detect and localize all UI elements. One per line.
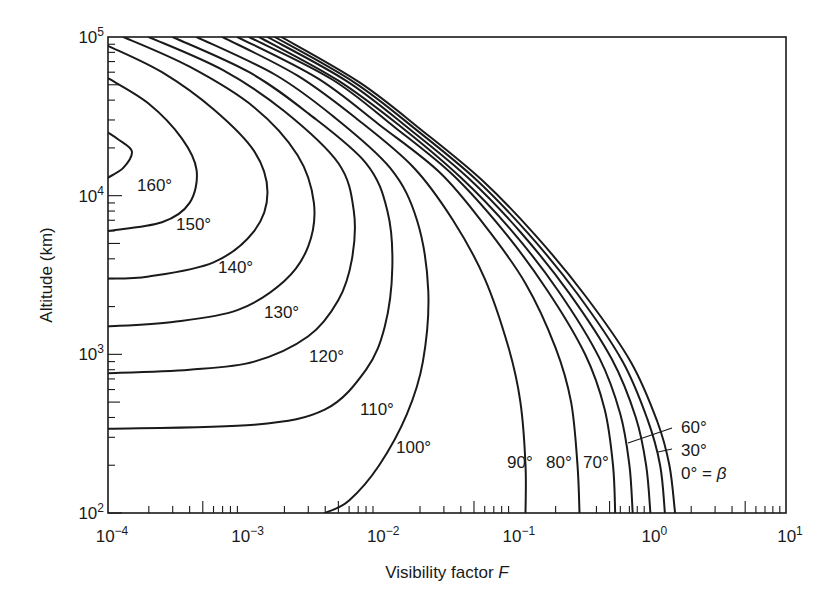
- curve-140deg: [108, 46, 268, 279]
- label-150: 150°: [176, 215, 211, 234]
- x-tick-label: 10−1: [502, 524, 535, 546]
- x-tick-label: 10−4: [96, 524, 129, 546]
- label-80: 80°: [546, 453, 572, 472]
- y-tick-label: 103: [78, 342, 104, 364]
- y-tick-label: 102: [78, 501, 104, 523]
- axis-ticks: [108, 44, 780, 513]
- x-tick-label: 10−3: [231, 524, 264, 546]
- visibility-factor-chart: 10−410−310−210−1100101102103104105 Visib…: [0, 0, 830, 602]
- curve-labels: 160° 150° 140° 130° 120° 110° 100° 90° 8…: [137, 176, 727, 483]
- label-0-beta: 0° = β: [681, 464, 727, 483]
- label-110: 110°: [360, 400, 394, 419]
- curve-50deg: [268, 37, 651, 513]
- label-90: 90°: [507, 453, 533, 472]
- label-70: 70°: [583, 453, 609, 472]
- label-30: 30°: [681, 441, 707, 460]
- y-tick-label: 104: [78, 184, 104, 206]
- curve-90deg: [223, 37, 526, 513]
- curve-110deg: [108, 37, 392, 429]
- leader-60: [628, 428, 672, 443]
- curve-150deg: [108, 78, 197, 231]
- curve-70deg: [249, 37, 615, 513]
- x-axis-title: Visibility factor F: [385, 563, 510, 582]
- label-120: 120°: [309, 347, 344, 366]
- label-140: 140°: [218, 258, 253, 277]
- label-130: 130°: [264, 303, 299, 322]
- y-axis-title: Altitude (km): [37, 227, 56, 322]
- x-tick-label: 10−2: [367, 524, 400, 546]
- curve-120deg: [108, 37, 355, 373]
- curve-0deg: [281, 37, 675, 513]
- x-tick-label: 100: [642, 524, 668, 546]
- label-160: 160°: [137, 176, 172, 195]
- label-60: 60°: [681, 418, 707, 437]
- y-tick-label: 105: [78, 25, 104, 47]
- curve-30deg: [275, 37, 665, 513]
- label-100: 100°: [396, 438, 431, 457]
- curves: [108, 37, 675, 513]
- curve-160deg: [108, 133, 132, 178]
- x-tick-label: 101: [777, 524, 803, 546]
